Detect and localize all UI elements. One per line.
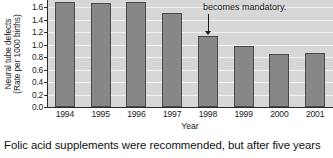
- y-axis-tick-label: 0.2: [32, 91, 43, 99]
- y-axis-tick-label: 1.4: [32, 16, 43, 24]
- y-axis-tick-mark: [44, 70, 47, 71]
- x-axis-tick-label-1999: 1999: [226, 109, 262, 119]
- y-axis-tick-mark: [44, 45, 47, 46]
- annotation-arrow-head-icon: [205, 31, 211, 35]
- bar-1998[interactable]: [198, 36, 218, 107]
- x-axis-tick-label-2000: 2000: [262, 109, 298, 119]
- y-axis-tick-mark: [44, 7, 47, 8]
- y-axis-title-line-2: (Rate per 1000 births): [13, 14, 22, 93]
- y-axis-tick-mark: [44, 32, 47, 33]
- y-axis-line: [47, 0, 48, 108]
- y-axis-tick-mark: [44, 95, 47, 96]
- annotation-arrow-shaft: [208, 14, 209, 31]
- x-axis-line: [47, 107, 333, 108]
- y-axis-tick-label: 1.2: [32, 28, 43, 36]
- y-axis-tick-label: 0.0: [32, 103, 43, 111]
- y-axis-tick-mark: [44, 20, 47, 21]
- x-axis-tick-label-1994: 1994: [47, 109, 83, 119]
- y-axis-tick-label: 1.0: [32, 41, 43, 49]
- y-axis-tick-label: 0.8: [32, 53, 43, 61]
- x-axis-tick-label-1997: 1997: [154, 109, 190, 119]
- y-axis-tick-label: 0.4: [32, 78, 43, 86]
- plot-area: [47, 0, 333, 108]
- figure-caption: Folic acid supplements were recommended,…: [4, 138, 333, 152]
- y-axis-tick-mark: [44, 57, 47, 58]
- x-axis-title: Year: [47, 121, 333, 131]
- bar-2001[interactable]: [305, 53, 325, 107]
- y-axis-tick-mark: [44, 107, 47, 108]
- x-axis-tick-label-2001: 2001: [297, 109, 333, 119]
- bar-1999[interactable]: [234, 46, 254, 107]
- y-axis-ticks: 1.61.41.21.00.80.60.40.20.0: [22, 0, 44, 108]
- bar-2000[interactable]: [269, 54, 289, 107]
- chart-annotation-label: becomes mandatory.: [203, 2, 286, 12]
- bar-1997[interactable]: [162, 13, 182, 107]
- bar-1995[interactable]: [91, 3, 111, 107]
- x-axis-tick-label-1996: 1996: [119, 109, 155, 119]
- x-axis-tick-label-1998: 1998: [190, 109, 226, 119]
- x-axis-ticks: 19941995199619971998199920002001: [47, 109, 333, 121]
- bar-1996[interactable]: [126, 2, 146, 107]
- y-axis-tick-label: 0.6: [32, 66, 43, 74]
- y-axis-tick-mark: [44, 82, 47, 83]
- y-axis-tick-label: 1.6: [32, 3, 43, 11]
- x-axis-tick-label-1995: 1995: [83, 109, 119, 119]
- chart-figure: Neural tube defects (Rate per 1000 birth…: [0, 0, 333, 158]
- bar-1994[interactable]: [55, 2, 75, 107]
